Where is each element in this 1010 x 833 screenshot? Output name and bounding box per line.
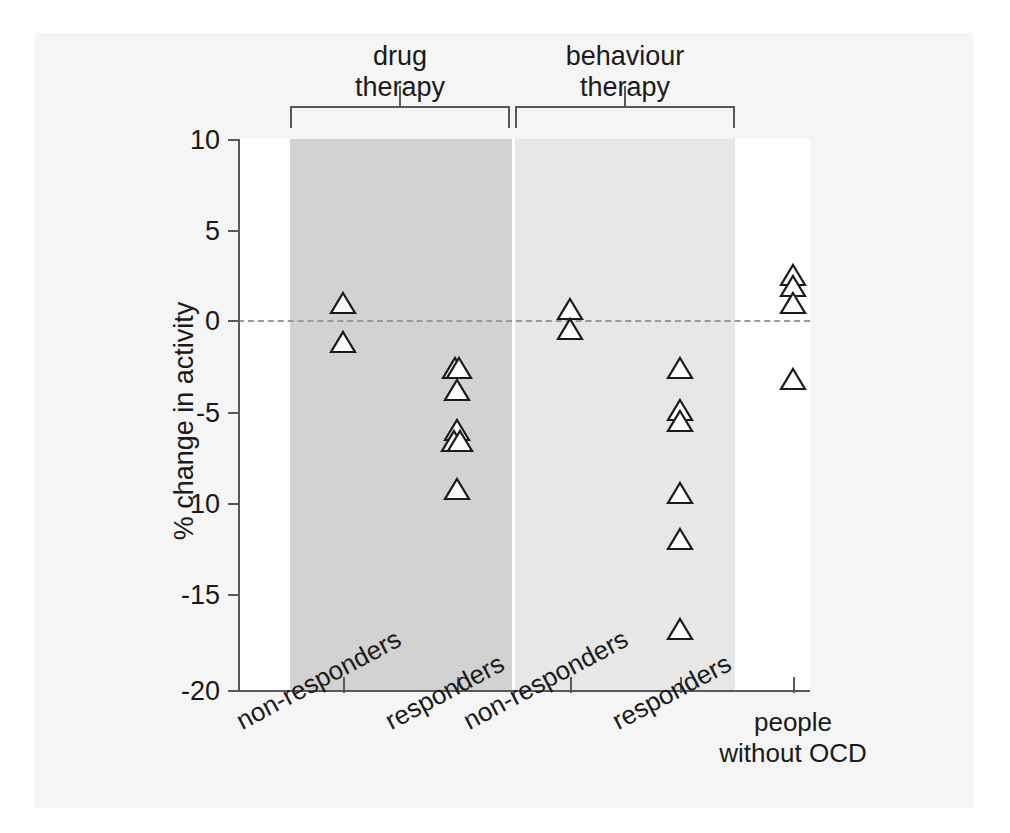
data-point-marker bbox=[555, 316, 585, 342]
band-behaviour-therapy bbox=[515, 139, 735, 692]
bracket-title-line-2: therapy bbox=[355, 72, 445, 103]
data-point-marker bbox=[665, 480, 695, 506]
x-label-people-without-ocd: people without OCD bbox=[719, 707, 866, 768]
y-tick-label-minus20: -20 bbox=[181, 678, 220, 705]
y-tick-label-minus10: -10 bbox=[181, 491, 220, 518]
figure-canvas: % change in activity drug therapy behavi… bbox=[35, 33, 973, 808]
x-label-line-2: without OCD bbox=[719, 738, 866, 769]
y-tick-minus20: -20 bbox=[228, 690, 238, 692]
y-tick-label-0: 0 bbox=[205, 308, 220, 335]
y-tick-10: 10 bbox=[228, 139, 238, 141]
y-tick-0: 0 bbox=[228, 320, 238, 322]
data-point-marker bbox=[442, 377, 472, 403]
bracket-title-drug-therapy: drug therapy bbox=[355, 41, 445, 103]
data-point-marker bbox=[328, 290, 358, 316]
y-axis-spine bbox=[238, 139, 240, 692]
data-point-marker bbox=[442, 476, 472, 502]
data-point-marker bbox=[778, 366, 808, 392]
zero-reference-line bbox=[238, 320, 810, 322]
data-point-marker bbox=[665, 355, 695, 381]
y-tick-minus10: -10 bbox=[228, 503, 238, 505]
band-drug-therapy bbox=[290, 139, 512, 692]
bracket-title-behaviour-therapy: behaviour therapy bbox=[566, 41, 685, 103]
data-point-marker bbox=[778, 290, 808, 316]
data-point-marker bbox=[665, 526, 695, 552]
x-tick-4 bbox=[793, 677, 795, 693]
data-point-marker bbox=[445, 428, 475, 454]
data-point-marker bbox=[328, 329, 358, 355]
y-tick-minus15: -15 bbox=[228, 594, 238, 596]
bracket-title-line-2: therapy bbox=[566, 72, 685, 103]
y-tick-5: 5 bbox=[228, 230, 238, 232]
bracket-behaviour-therapy bbox=[515, 106, 735, 128]
y-tick-label-5: 5 bbox=[205, 218, 220, 245]
y-tick-minus5: -5 bbox=[228, 412, 238, 414]
bracket-title-line-1: drug bbox=[355, 41, 445, 72]
y-tick-label-minus5: -5 bbox=[196, 400, 220, 427]
data-point-marker bbox=[665, 408, 695, 434]
bracket-title-line-1: behaviour bbox=[566, 41, 685, 72]
y-tick-label-minus15: -15 bbox=[181, 582, 220, 609]
plot-area: 10 5 0 -5 -10 -15 -20 bbox=[238, 139, 810, 692]
bracket-drug-therapy bbox=[290, 106, 510, 128]
data-point-marker bbox=[665, 616, 695, 642]
y-tick-label-10: 10 bbox=[190, 127, 220, 154]
x-label-line-1: people bbox=[719, 707, 866, 738]
